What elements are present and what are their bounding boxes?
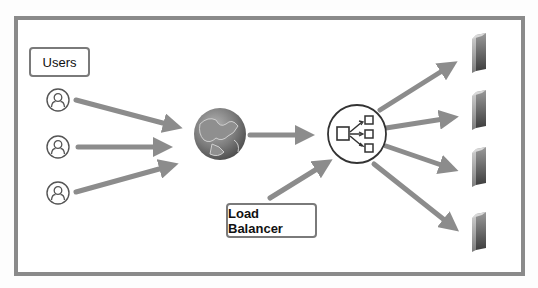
server-icon — [472, 212, 486, 252]
arrow-lb-server2 — [386, 118, 450, 128]
users-label: Users — [29, 47, 90, 77]
user-icon — [47, 89, 69, 111]
server-icon — [472, 33, 486, 73]
arrow-lb-server3 — [386, 146, 450, 168]
globe-icon — [194, 108, 246, 160]
diagram-canvas — [0, 0, 538, 288]
load-balancer-icon — [328, 105, 386, 163]
server-icon — [472, 90, 486, 130]
arrow-user3-internet — [76, 166, 170, 192]
arrows-users-to-internet — [76, 66, 452, 226]
arrow-user1-internet — [76, 100, 174, 126]
server-icon — [472, 147, 486, 187]
load-balancer-label: Load Balancer — [226, 203, 317, 238]
arrow-lb-server1 — [380, 66, 450, 110]
user-icon — [47, 182, 69, 204]
arrow-lb-server4 — [374, 164, 452, 226]
arrow-label-lb — [270, 164, 325, 198]
user-icon — [47, 136, 69, 158]
